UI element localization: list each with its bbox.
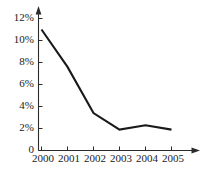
x-tick-label-2001: 2001	[58, 152, 80, 164]
line-chart-figure: 12% 10% 8% 6% 4% 2% 0 2000 2001 2002 200…	[0, 0, 209, 171]
y-tick-label-2: 2%	[19, 121, 34, 133]
y-tick-label-8: 8%	[19, 55, 34, 67]
y-tick-label-12: 12%	[14, 11, 34, 23]
x-axis-ticks	[42, 147, 172, 151]
y-axis-ticks	[39, 19, 43, 151]
x-axis-tick-labels: 2000 2001 2002 2003 2004 2005	[32, 152, 185, 164]
x-tick-label-2000: 2000	[32, 152, 55, 164]
x-tick-label-2004: 2004	[136, 152, 159, 164]
y-tick-label-4: 4%	[19, 99, 34, 111]
y-axis-arrowhead	[36, 6, 42, 15]
y-tick-label-6: 6%	[19, 77, 34, 89]
x-axis-arrowhead	[192, 148, 201, 154]
x-tick-label-2005: 2005	[162, 152, 185, 164]
x-tick-label-2003: 2003	[110, 152, 133, 164]
chart-plot-area: 12% 10% 8% 6% 4% 2% 0 2000 2001 2002 200…	[0, 0, 209, 171]
x-tick-label-2002: 2002	[84, 152, 106, 164]
data-series-line	[42, 30, 172, 130]
y-axis-tick-labels: 12% 10% 8% 6% 4% 2% 0	[14, 11, 35, 155]
y-tick-label-10: 10%	[14, 33, 34, 45]
